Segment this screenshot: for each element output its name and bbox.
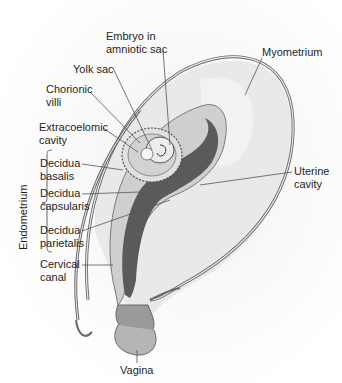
label-chorionic-line1: Chorionic: [46, 83, 92, 96]
label-embryo-line1: Embryo in: [106, 30, 167, 43]
label-vagina: Vagina: [120, 364, 153, 377]
uterus-diagram: Embryo in amniotic sac Yolk sac Chorioni…: [0, 0, 342, 383]
label-myometrium: Myometrium: [262, 46, 323, 59]
label-cervical-line2: canal: [40, 271, 80, 284]
label-yolk-sac: Yolk sac: [73, 63, 114, 76]
label-extracoelomic-cavity: Extracoelomic cavity: [39, 121, 108, 146]
label-decidua-capsularis: Decidua capsularis: [40, 187, 90, 212]
label-uterine-cavity: Uterine cavity: [294, 165, 329, 190]
label-cervical-line1: Cervical: [40, 258, 80, 271]
label-capsularis-line2: capsularis: [40, 200, 90, 213]
yolk-sac: [141, 148, 153, 160]
label-uterine-line1: Uterine: [294, 165, 329, 178]
label-endometrium: Endometrium: [17, 185, 29, 250]
label-embryo: Embryo in amniotic sac: [106, 30, 167, 55]
label-chorionic-line2: villi: [46, 96, 92, 109]
label-chorionic-villi: Chorionic villi: [46, 83, 92, 108]
label-basalis-line2: basalis: [40, 170, 80, 183]
label-extracoelomic-line2: cavity: [39, 134, 108, 147]
label-extracoelomic-line1: Extracoelomic: [39, 121, 108, 134]
label-parietalis-line1: Decidua: [40, 224, 84, 237]
label-embryo-line2: amniotic sac: [106, 43, 167, 56]
label-decidua-basalis: Decidua basalis: [40, 157, 80, 182]
label-cervical-canal: Cervical canal: [40, 258, 80, 283]
label-basalis-line1: Decidua: [40, 157, 80, 170]
label-parietalis-line2: parietalis: [40, 237, 84, 250]
label-decidua-parietalis: Decidua parietalis: [40, 224, 84, 249]
label-capsularis-line1: Decidua: [40, 187, 90, 200]
label-uterine-line2: cavity: [294, 178, 329, 191]
